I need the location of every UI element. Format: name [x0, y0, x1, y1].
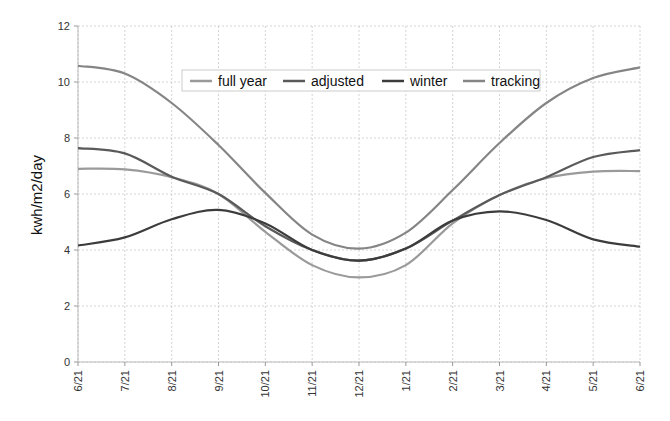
y-tick-label: 4 [64, 244, 70, 256]
y-tick-label: 8 [64, 132, 70, 144]
y-tick-label: 0 [64, 356, 70, 368]
x-tick-label: 9/21 [213, 370, 225, 391]
y-tick-label: 12 [58, 20, 70, 32]
legend: full yearadjustedwintertracking [182, 70, 540, 91]
x-tick-label: 12/21 [353, 370, 365, 398]
legend-label: adjusted [311, 73, 364, 89]
x-tick-label: 10/21 [259, 370, 271, 398]
legend-label: tracking [491, 73, 540, 89]
x-tick-label: 8/21 [166, 370, 178, 391]
x-tick-label: 11/21 [306, 370, 318, 397]
y-axis-ticks: 024681012 [58, 20, 78, 368]
x-tick-label: 3/21 [494, 370, 506, 391]
x-tick-label: 1/21 [400, 370, 412, 391]
legend-label: full year [218, 73, 267, 89]
x-tick-label: 6/21 [72, 370, 84, 391]
x-tick-label: 7/21 [119, 370, 131, 391]
line-chart: 024681012 6/217/218/219/2110/2111/2112/2… [0, 0, 670, 421]
y-axis-title: kwh/m2/day [28, 154, 45, 235]
legend-label: winter [409, 73, 448, 89]
y-tick-label: 6 [64, 188, 70, 200]
x-tick-label: 6/21 [634, 370, 646, 391]
x-tick-label: 2/21 [447, 370, 459, 391]
x-tick-label: 4/21 [540, 370, 552, 391]
x-axis-ticks: 6/217/218/219/2110/2111/2112/211/212/213… [72, 362, 646, 398]
y-tick-label: 10 [58, 76, 70, 88]
x-tick-label: 5/21 [587, 370, 599, 391]
y-tick-label: 2 [64, 300, 70, 312]
series-line-tracking [78, 66, 640, 249]
